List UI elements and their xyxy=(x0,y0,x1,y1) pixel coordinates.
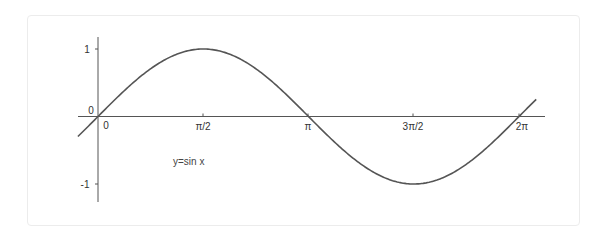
y-tick-label-neg1: -1 xyxy=(81,179,90,190)
y-tick-label-0: 0 xyxy=(88,105,94,116)
sine-chart: 1 0 -1 0 π/2 π 3π/2 2π y=sin x xyxy=(0,0,613,239)
x-tick-label-three-pi-half: 3π/2 xyxy=(403,121,424,132)
x-tick-label-0: 0 xyxy=(103,120,109,131)
x-tick-label-two-pi: 2π xyxy=(516,121,529,132)
x-tick-label-pi-half: π/2 xyxy=(195,121,211,132)
y-tick-label-1: 1 xyxy=(84,44,90,55)
x-tick-label-pi: π xyxy=(305,121,312,132)
function-annotation: y=sin x xyxy=(173,156,204,167)
